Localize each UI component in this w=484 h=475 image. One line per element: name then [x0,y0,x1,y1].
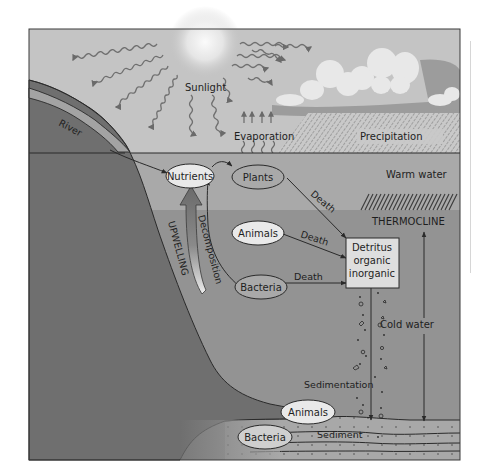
animals-floor-label: Animals [288,407,328,418]
node-animals-mid: Animals [232,221,284,245]
sediment-label: Sediment [317,429,363,440]
sedimentation-label: Sedimentation [304,379,373,390]
detritus-label: Detritus [352,242,392,253]
warm-water-label: Warm water [386,169,448,180]
detritus-organic-label: organic [353,255,390,266]
node-detritus: Detritus organic inorganic [346,238,399,288]
cold-water-label: Cold water [380,319,435,330]
nutrient-cycle-diagram: River Sunlight Evaporation Precipitation… [0,0,484,475]
animals-mid-label: Animals [238,228,278,239]
thermocline-label: THERMOCLINE [371,216,445,227]
node-plants: Plants [232,165,284,189]
evaporation-label: Evaporation [234,131,294,142]
plants-label: Plants [243,172,273,183]
node-animals-floor: Animals [281,400,335,424]
bacteria-floor-label: Bacteria [244,432,286,443]
sun-icon [169,6,241,78]
nutrients-label: Nutrients [167,171,213,182]
node-bacteria-mid: Bacteria [235,275,287,299]
node-bacteria-floor: Bacteria [238,425,292,449]
precipitation-label: Precipitation [360,131,423,142]
bacteria-mid-label: Bacteria [240,282,282,293]
node-nutrients: Nutrients [166,164,214,188]
bacteria-death-label: Death [294,271,323,282]
side-rule [470,41,471,273]
detritus-inorganic-label: inorganic [349,268,395,279]
sunlight-label: Sunlight [185,82,226,93]
